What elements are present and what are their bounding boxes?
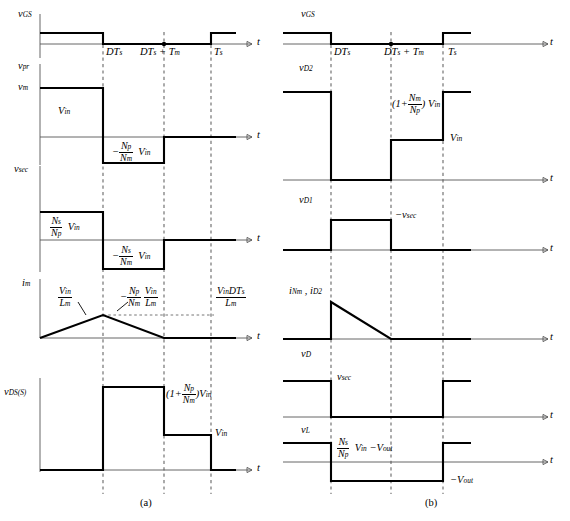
waveform-figure: vGS vpr vm vsec im vDS(S) t t t t t DTs … — [0, 0, 570, 521]
taxis-label-vsec-a: t — [257, 233, 260, 244]
taxis-label-vl-b: t — [550, 455, 553, 466]
annot-np-nm-vin-a: −NpNm Vin — [112, 141, 151, 163]
caption-b: (b) — [425, 497, 437, 508]
ylabel-vd-b: vD — [301, 348, 311, 359]
taxis-label-im-a: t — [257, 331, 260, 342]
panel-vdss-a — [40, 378, 252, 473]
column-b-plots — [283, 0, 570, 521]
time-marker-dts-a: DTs — [106, 47, 122, 58]
taxis-label-vdss-a: t — [257, 463, 260, 474]
panel-vd2-b — [283, 64, 548, 183]
ylabel-vm-a: vm — [18, 81, 28, 92]
annot-vd1-negvsec-b: −vsec — [395, 210, 416, 221]
annot-slope-fall-im-a: −NpNm VinLm — [120, 286, 158, 308]
annot-vin-vpr-a: Vin — [58, 106, 70, 117]
time-marker-dts-b: DTs — [334, 47, 350, 58]
annot-ns-np-vin-a: NsNp Vin — [50, 216, 80, 238]
annot-vl-negvout-b: −Vout — [450, 475, 473, 486]
caption-a: (a) — [140, 497, 152, 508]
annot-slope-rise-im-a: VinLm — [58, 286, 72, 308]
panel-vd1-b — [283, 196, 548, 253]
ylabel-vdss-a: vDS(S) — [4, 386, 26, 397]
time-marker-ts-b: Ts — [448, 47, 457, 58]
time-marker-dts-tm-a: DTs + Tm — [140, 47, 180, 58]
ylabel-vgs-b: vGS — [301, 8, 315, 19]
annot-ns-nm-vin-a: −NsNm Vin — [112, 245, 151, 267]
panel-vl-b — [283, 425, 548, 488]
ylabel-im-a: im — [22, 277, 30, 288]
annot-vd2-vin-b: Vin — [450, 133, 462, 144]
time-marker-ts-a: Ts — [214, 47, 223, 58]
annot-vl-high-b: NsNp Vin −Vout — [337, 437, 392, 459]
taxis-label-inm-b: t — [550, 332, 553, 343]
annot-vd2-peak-b: (1+NmNp) Vin — [392, 93, 440, 115]
panel-vd-b — [283, 349, 548, 420]
annot-vd-vsec-b: vsec — [337, 372, 351, 383]
annot-peak-im-a: VinDTsLm — [216, 286, 246, 308]
ylabel-vpr-a: vpr — [18, 60, 29, 71]
ylabel-vgs-a: vGS — [18, 8, 32, 19]
annot-vdss-vin-a: Vin — [215, 428, 227, 439]
ylabel-inm-id2-b: iNm , iD2 — [289, 285, 322, 296]
ylabel-vd2-b: vD2 — [299, 62, 313, 73]
taxis-label-vgs-b: t — [550, 37, 553, 48]
taxis-label-vd2-b: t — [550, 173, 553, 184]
ylabel-vd1-b: vD1 — [299, 194, 313, 205]
taxis-label-vd1-b: t — [550, 243, 553, 254]
time-marker-dts-tm-b: DTs + Tm — [384, 47, 424, 58]
ylabel-vl-b: vL — [301, 424, 310, 435]
annot-vdss-peak-a: (1+NpNm)Vin — [166, 383, 212, 405]
ylabel-vsec-a: vsec — [14, 163, 28, 174]
taxis-label-vd-b: t — [550, 410, 553, 421]
panel-inm-id2-b — [283, 288, 548, 342]
taxis-label-vgs-a: t — [257, 37, 260, 48]
taxis-label-vpr-a: t — [257, 130, 260, 141]
